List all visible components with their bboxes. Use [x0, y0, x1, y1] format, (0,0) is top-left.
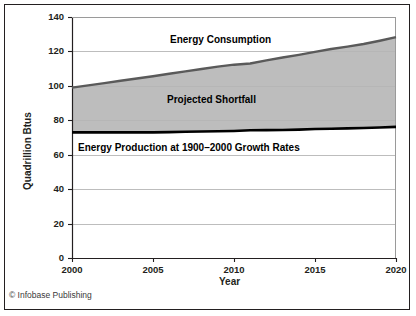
x-tick-label: 2010 [214, 264, 254, 275]
energy-production-label: Energy Production at 1900–2000 Growth Ra… [78, 142, 300, 153]
x-tick-label: 2015 [295, 264, 335, 275]
y-axis-title: Quadrillion Btus [22, 112, 33, 190]
y-tick-label: 40 [34, 183, 64, 194]
figure-container: 020406080100120140 20002005201020152020 … [0, 0, 416, 316]
x-tick-label: 2000 [52, 264, 92, 275]
x-tick-label: 2020 [376, 264, 416, 275]
publisher-credit: © Infobase Publishing [9, 290, 92, 300]
y-tick-label: 0 [34, 252, 64, 263]
x-axis-title: Year [219, 276, 240, 287]
y-tick-label: 80 [34, 114, 64, 125]
projected-shortfall-label: Projected Shortfall [167, 94, 256, 105]
energy-consumption-label: Energy Consumption [170, 34, 271, 45]
y-axis-ticks [68, 18, 72, 259]
y-tick-label: 140 [34, 11, 64, 22]
x-tick-label: 2005 [133, 264, 173, 275]
y-tick-label: 120 [34, 45, 64, 56]
y-tick-label: 100 [34, 80, 64, 91]
y-tick-label: 20 [34, 218, 64, 229]
y-tick-label: 60 [34, 149, 64, 160]
